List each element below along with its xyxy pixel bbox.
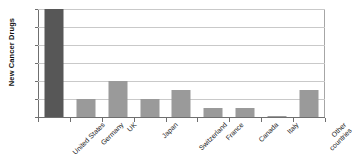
x-axis-category-label-line: Switzerland bbox=[197, 121, 228, 152]
bar-slot bbox=[166, 9, 198, 117]
bars-layer bbox=[38, 9, 325, 117]
x-axis-line bbox=[38, 117, 325, 118]
chart-title-cropped bbox=[100, 0, 250, 3]
bar-slot bbox=[261, 9, 293, 117]
x-axis-category-label: France bbox=[225, 121, 246, 142]
bar bbox=[172, 90, 191, 117]
x-axis-category-label-line: Japan bbox=[160, 121, 178, 139]
bar bbox=[108, 81, 127, 117]
bar-slot bbox=[102, 9, 134, 117]
bar-slot bbox=[197, 9, 229, 117]
bar bbox=[268, 116, 287, 117]
y-axis-title: New Cancer Drugs bbox=[6, 2, 18, 102]
bar-slot bbox=[134, 9, 166, 117]
bar-slot bbox=[38, 9, 70, 117]
bar bbox=[204, 108, 223, 117]
bar-slot bbox=[229, 9, 261, 117]
x-axis-category-label-line: UK bbox=[126, 121, 138, 133]
bar bbox=[236, 108, 255, 117]
x-axis-category-label: Canada bbox=[257, 121, 280, 144]
x-axis-category-label: Othercountries bbox=[322, 121, 353, 152]
bar bbox=[140, 99, 159, 117]
bar-slot bbox=[293, 9, 325, 117]
bar bbox=[44, 9, 63, 117]
bar bbox=[76, 99, 95, 117]
x-axis-category-label: Japan bbox=[160, 121, 179, 140]
bar bbox=[300, 90, 319, 117]
bar-slot bbox=[70, 9, 102, 117]
x-axis-category-label: Italy bbox=[286, 121, 301, 136]
x-axis-category-label-line: Italy bbox=[286, 121, 300, 135]
x-axis-category-label-line: Canada bbox=[257, 121, 279, 143]
x-axis-category-label-line: France bbox=[225, 121, 245, 141]
x-axis-category-label: UK bbox=[126, 121, 139, 134]
x-axis-category-labels: United StatesGermanyUKJapanSwitzerlandFr… bbox=[0, 121, 331, 161]
